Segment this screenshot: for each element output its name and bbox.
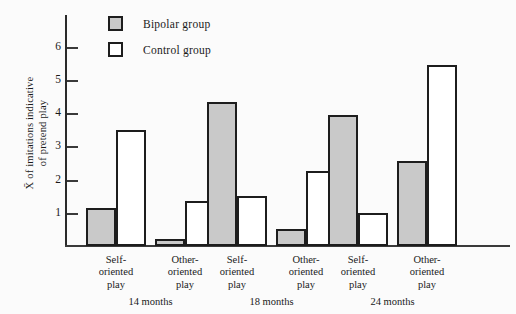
bar-bipolar-1: [86, 208, 116, 246]
bar-bipolar-5: [328, 115, 358, 246]
x-group-label-2: 18 months: [212, 296, 332, 307]
bar-control-5: [358, 213, 388, 246]
bar-control-6: [427, 65, 457, 246]
y-tick-label-3: 3: [45, 140, 61, 152]
x-category-label-5-line1: Self-: [325, 254, 391, 266]
bar-control-3: [237, 196, 267, 246]
bar-bipolar-4: [276, 229, 306, 246]
y-tick-label-1: 1: [45, 207, 61, 219]
y-tick-label-5: 5: [45, 74, 61, 86]
x-category-label-5: Self-orientedplay: [325, 254, 391, 291]
x-category-label-1: Self-orientedplay: [83, 254, 149, 291]
x-group-label-1: 14 months: [91, 296, 211, 307]
x-category-label-6-line2: oriented: [394, 266, 460, 278]
x-category-label-1-line3: play: [83, 279, 149, 291]
x-category-label-3: Self-orientedplay: [204, 254, 270, 291]
bar-control-1: [116, 130, 146, 246]
x-category-label-3-line2: oriented: [204, 266, 270, 278]
x-group-label-3: 24 months: [333, 296, 453, 307]
x-category-label-1-line2: oriented: [83, 266, 149, 278]
plot-area: [65, 15, 510, 246]
y-tick-label-6: 6: [45, 41, 61, 53]
x-category-label-5-line3: play: [325, 279, 391, 291]
bar-bipolar-3: [207, 102, 237, 246]
x-category-label-6-line3: play: [394, 279, 460, 291]
y-tick-label-2: 2: [45, 174, 61, 186]
bar-bipolar-6: [397, 161, 427, 246]
bar-bipolar-2: [155, 239, 185, 246]
x-category-label-3-line3: play: [204, 279, 270, 291]
x-category-label-5-line2: oriented: [325, 266, 391, 278]
x-category-label-1-line1: Self-: [83, 254, 149, 266]
x-category-label-3-line1: Self-: [204, 254, 270, 266]
x-category-label-6-line1: Other-: [394, 254, 460, 266]
y-tick-label-4: 4: [45, 107, 61, 119]
x-category-label-6: Other-orientedplay: [394, 254, 460, 291]
y-axis-title-line1: X̄ of imitations indicative: [24, 77, 35, 190]
bar-chart-figure: Bipolar group Control group X̄ of imitat…: [0, 0, 516, 314]
